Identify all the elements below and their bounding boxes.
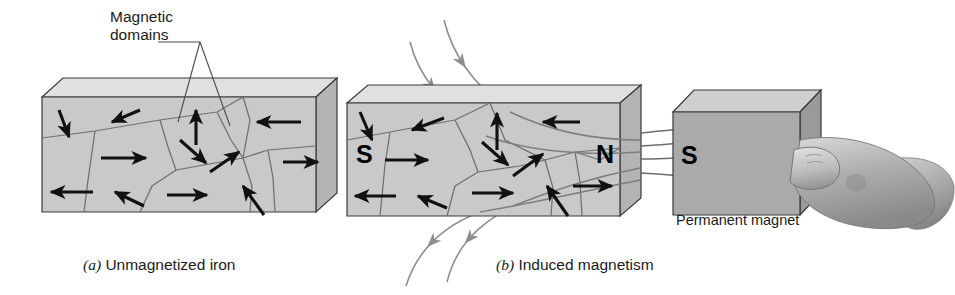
panel-a-block xyxy=(42,78,337,215)
caption-panel-a: (a) Unmagnetized iron xyxy=(83,256,236,274)
hand-knuckle-shadow xyxy=(846,174,867,191)
caption-a-index: (a) xyxy=(83,256,101,273)
field-line-top-1-arrowhead-icon xyxy=(456,55,468,68)
magnet-top-face xyxy=(673,90,821,112)
block-b-side-face xyxy=(620,85,641,216)
caption-panel-b: (b) Induced magnetism xyxy=(496,256,654,274)
figure-canvas xyxy=(0,0,955,295)
block-a-side-face xyxy=(316,78,337,212)
caption-b-index: (b) xyxy=(496,256,514,273)
caption-permanent-magnet: Permanent magnet xyxy=(676,212,799,228)
caption-a-text: Unmagnetized iron xyxy=(105,256,235,273)
hand-group xyxy=(790,138,954,230)
block-b-top-face xyxy=(347,85,641,103)
magnetic-domains-label: Magnetic domains xyxy=(110,8,173,44)
pole-label-block-south: S xyxy=(356,142,373,167)
pole-label-magnet-south: S xyxy=(681,143,698,168)
caption-b-text: Induced magnetism xyxy=(518,256,653,273)
field-line-bottom-2 xyxy=(406,212,480,286)
pole-label-block-north: N xyxy=(596,142,614,167)
magnetic-domains-figure: Magnetic domains (a) Unmagnetized iron (… xyxy=(0,0,955,295)
